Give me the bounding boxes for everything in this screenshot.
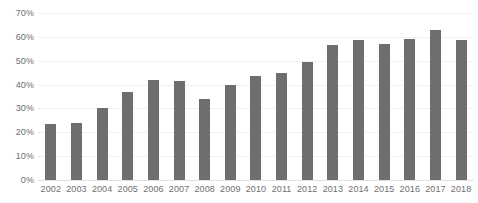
x-axis-tick: 2007 <box>166 182 192 198</box>
y-axis-tick-label: 50% <box>16 56 34 66</box>
bar[interactable] <box>45 124 56 180</box>
y-axis-tick-label: 60% <box>16 32 34 42</box>
x-axis-tick: 2008 <box>192 182 218 198</box>
bar-slot <box>217 13 243 180</box>
bar-slot <box>269 13 295 180</box>
x-axis-tick-label: 2015 <box>371 182 397 196</box>
bar[interactable] <box>302 62 313 180</box>
x-axis-tick: 2017 <box>423 182 449 198</box>
x-axis-tick-label: 2011 <box>269 182 295 196</box>
bar-slot <box>115 13 141 180</box>
x-axis-tick-label: 2014 <box>346 182 372 196</box>
bar-chart: 0%10%20%30%40%50%60%70% 2002200320042005… <box>0 0 478 203</box>
bar-slot <box>371 13 397 180</box>
bar-slot <box>397 13 423 180</box>
bar[interactable] <box>276 73 287 180</box>
bar-slot <box>141 13 167 180</box>
bar-slot <box>423 13 449 180</box>
x-axis-tick: 2013 <box>320 182 346 198</box>
x-axis-tick: 2005 <box>115 182 141 198</box>
bar-slot <box>89 13 115 180</box>
bar[interactable] <box>353 40 364 180</box>
x-axis-tick: 2012 <box>294 182 320 198</box>
axis-baseline <box>38 180 474 181</box>
y-axis: 0%10%20%30%40%50%60%70% <box>0 13 34 180</box>
y-axis-tick-label: 70% <box>16 8 34 18</box>
bar-slot <box>320 13 346 180</box>
x-axis-tick-label: 2005 <box>115 182 141 196</box>
y-axis-tick-label: 10% <box>16 151 34 161</box>
bar[interactable] <box>199 99 210 180</box>
bar[interactable] <box>148 80 159 180</box>
x-axis-tick: 2018 <box>448 182 474 198</box>
bar-series <box>38 13 474 180</box>
x-axis-tick: 2011 <box>269 182 295 198</box>
x-axis-tick-label: 2003 <box>64 182 90 196</box>
y-axis-tick-label: 0% <box>21 175 34 185</box>
x-axis-tick: 2006 <box>141 182 167 198</box>
bar[interactable] <box>71 123 82 180</box>
x-axis-tick-label: 2006 <box>141 182 167 196</box>
bar-slot <box>243 13 269 180</box>
x-axis-tick: 2003 <box>64 182 90 198</box>
bar-slot <box>192 13 218 180</box>
y-axis-tick-label: 30% <box>16 103 34 113</box>
y-axis-tick-label: 20% <box>16 127 34 137</box>
bar-slot <box>38 13 64 180</box>
bar[interactable] <box>456 40 467 180</box>
x-axis-tick-label: 2016 <box>397 182 423 196</box>
x-axis-tick: 2016 <box>397 182 423 198</box>
x-axis-tick: 2015 <box>371 182 397 198</box>
bar[interactable] <box>97 108 108 180</box>
bar[interactable] <box>250 76 261 180</box>
x-axis-tick: 2004 <box>89 182 115 198</box>
x-axis-tick-label: 2012 <box>294 182 320 196</box>
bar-slot <box>166 13 192 180</box>
bar[interactable] <box>379 44 390 180</box>
bar[interactable] <box>404 39 415 180</box>
x-axis-tick-label: 2007 <box>166 182 192 196</box>
bar[interactable] <box>430 30 441 180</box>
x-axis-tick-label: 2017 <box>423 182 449 196</box>
x-axis-tick: 2009 <box>217 182 243 198</box>
x-axis-tick-label: 2004 <box>89 182 115 196</box>
bar[interactable] <box>122 92 133 180</box>
x-axis-tick-label: 2010 <box>243 182 269 196</box>
x-axis-tick-label: 2008 <box>192 182 218 196</box>
bar[interactable] <box>174 81 185 180</box>
x-axis-tick-label: 2018 <box>448 182 474 196</box>
bar-slot <box>64 13 90 180</box>
x-axis-tick-label: 2013 <box>320 182 346 196</box>
bar[interactable] <box>327 45 338 180</box>
x-axis-tick: 2010 <box>243 182 269 198</box>
x-axis-tick: 2014 <box>346 182 372 198</box>
bar[interactable] <box>225 85 236 180</box>
bar-slot <box>294 13 320 180</box>
x-axis-tick: 2002 <box>38 182 64 198</box>
bar-slot <box>346 13 372 180</box>
y-axis-tick-label: 40% <box>16 80 34 90</box>
x-axis-tick-label: 2002 <box>38 182 64 196</box>
x-axis: 2002200320042005200620072008200920102011… <box>38 182 474 198</box>
x-axis-tick-label: 2009 <box>217 182 243 196</box>
bar-slot <box>448 13 474 180</box>
